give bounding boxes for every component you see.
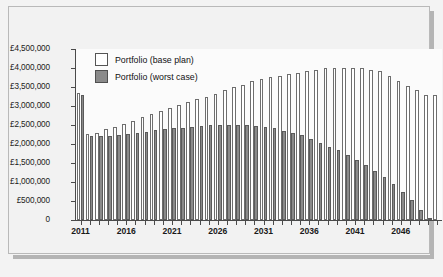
y-axis-tick-label: £4,500,000 <box>10 44 50 53</box>
x-axis-tick-mark <box>428 221 429 225</box>
x-axis-tick-mark <box>383 221 384 225</box>
chart-figure: £4,500,000£4,000,000£3,500,000£3,000,000… <box>0 0 443 277</box>
x-axis-tick-mark <box>291 221 292 225</box>
x-axis-tick-mark <box>264 221 265 225</box>
bar-base-plan <box>433 95 437 220</box>
bar-worst-case <box>337 150 341 220</box>
bar-worst-case <box>328 147 332 220</box>
x-axis-tick-mark <box>135 221 136 225</box>
bar-worst-case <box>236 125 240 220</box>
bar-worst-case <box>401 192 405 220</box>
bar-worst-case <box>245 125 249 220</box>
x-axis-line <box>75 220 442 221</box>
x-axis-tick-mark <box>364 221 365 225</box>
x-axis-tick-mark <box>373 221 374 225</box>
x-axis-tick-mark <box>99 221 100 225</box>
x-axis-tick-mark <box>392 221 393 225</box>
bar-base-plan <box>424 95 428 220</box>
bar-worst-case <box>172 128 176 220</box>
bar-worst-case <box>282 131 286 220</box>
chart-card: £4,500,000£4,000,000£3,500,000£3,000,000… <box>8 6 430 254</box>
bar-worst-case <box>190 127 194 220</box>
y-axis-tick-label: £500,000 <box>17 196 50 205</box>
bar-worst-case <box>117 135 121 221</box>
x-axis-tick-label: 2031 <box>254 226 273 236</box>
y-axis-tick-label: £3,500,000 <box>10 82 50 91</box>
x-axis-tick-mark <box>117 221 118 225</box>
bar-worst-case <box>254 126 258 220</box>
bar-worst-case <box>419 210 423 220</box>
x-axis-tick-mark <box>309 221 310 225</box>
x-axis-tick-mark <box>126 221 127 225</box>
bar-worst-case <box>383 177 387 220</box>
bar-worst-case <box>346 155 350 220</box>
bar-worst-case <box>392 184 396 220</box>
bar-worst-case <box>163 129 167 220</box>
bar-worst-case <box>90 136 94 220</box>
x-axis-tick-label: 2016 <box>117 226 136 236</box>
x-axis-tick-mark <box>401 221 402 225</box>
x-axis-tick-mark <box>81 221 82 225</box>
bar-worst-case <box>319 143 323 220</box>
y-axis-tick-mark <box>71 220 76 221</box>
y-axis-tick-label: 0 <box>46 215 50 224</box>
x-axis-tick-mark <box>154 221 155 225</box>
y-axis-tick-label: £1,000,000 <box>10 177 50 186</box>
bar-worst-case <box>227 125 231 220</box>
x-axis-tick-label: 2041 <box>346 226 365 236</box>
bar-worst-case <box>264 127 268 220</box>
x-axis-tick-label: 2026 <box>208 226 227 236</box>
x-axis-tick-mark <box>318 221 319 225</box>
bar-worst-case <box>81 95 85 220</box>
bar-worst-case <box>99 136 103 220</box>
bar-worst-case <box>218 125 222 220</box>
legend-swatch-base-plan-icon <box>95 53 108 66</box>
x-axis-tick-mark <box>227 221 228 225</box>
legend-label-base-plan: Portfolio (base plan) <box>115 55 194 65</box>
x-axis-tick-mark <box>410 221 411 225</box>
x-axis-tick-mark <box>218 221 219 225</box>
x-axis-tick-mark <box>328 221 329 225</box>
x-axis-tick-mark <box>90 221 91 225</box>
legend-item-base-plan: Portfolio (base plan) <box>95 51 245 68</box>
x-axis-tick-label: 2036 <box>300 226 319 236</box>
bar-worst-case <box>300 135 304 220</box>
bar-worst-case <box>126 134 130 220</box>
bar-worst-case <box>108 136 112 220</box>
bar-base-plan <box>415 90 419 220</box>
bar-worst-case <box>200 126 204 220</box>
y-axis-tick-label: £2,000,000 <box>10 139 50 148</box>
x-axis-tick-mark <box>437 221 438 225</box>
x-axis-tick-mark <box>236 221 237 225</box>
legend-label-worst-case: Portfolio (worst case) <box>115 72 198 82</box>
bar-worst-case <box>309 139 313 220</box>
bar-worst-case <box>291 133 295 220</box>
bar-worst-case <box>428 218 432 220</box>
x-axis-tick-mark <box>346 221 347 225</box>
bar-worst-case <box>136 133 140 220</box>
x-axis-tick-mark <box>273 221 274 225</box>
x-axis-tick-label: 2046 <box>391 226 410 236</box>
bar-worst-case <box>181 128 185 220</box>
x-axis-tick-mark <box>145 221 146 225</box>
bar-worst-case <box>273 128 277 220</box>
x-axis-tick-mark <box>209 221 210 225</box>
y-axis-tick-label: £1,500,000 <box>10 158 50 167</box>
x-axis-tick-mark <box>163 221 164 225</box>
x-axis-tick-mark <box>190 221 191 225</box>
legend-item-worst-case: Portfolio (worst case) <box>95 68 245 85</box>
x-axis-tick-mark <box>282 221 283 225</box>
x-axis-tick-mark <box>355 221 356 225</box>
x-axis-tick-mark <box>245 221 246 225</box>
legend-swatch-worst-case-icon <box>95 70 108 83</box>
y-axis-tick-label: £2,500,000 <box>10 120 50 129</box>
bar-worst-case <box>364 165 368 220</box>
x-axis-tick-mark <box>337 221 338 225</box>
card-shadow-bottom <box>13 255 434 259</box>
bar-worst-case <box>145 132 149 220</box>
x-axis-tick-mark <box>172 221 173 225</box>
y-axis-tick-label: £4,000,000 <box>10 63 50 72</box>
bar-worst-case <box>355 160 359 220</box>
bar-worst-case <box>373 171 377 220</box>
x-axis-tick-label: 2011 <box>71 226 90 236</box>
